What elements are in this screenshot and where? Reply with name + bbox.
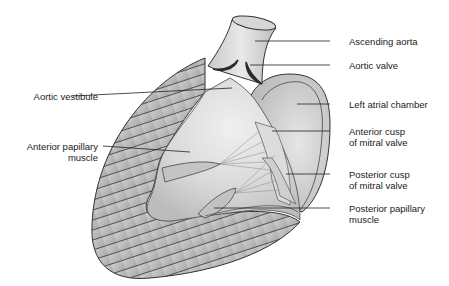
label-anterior-papillary-line2: muscle xyxy=(0,152,98,163)
label-aortic-vestibule: Aortic vestibule xyxy=(0,91,98,102)
label-posterior-cusp-line1: Posterior cusp xyxy=(349,169,410,180)
label-anterior-cusp-line2: of mitral valve xyxy=(349,137,408,148)
label-anterior-cusp-line1: Anterior cusp xyxy=(349,126,408,137)
label-aortic-valve: Aortic valve xyxy=(349,60,398,71)
label-anterior-papillary-line1: Anterior papillary xyxy=(0,141,98,152)
label-posterior-cusp: Posterior cusp of mitral valve xyxy=(349,169,410,191)
label-left-atrial-chamber: Left atrial chamber xyxy=(349,99,428,110)
label-posterior-papillary-line2: muscle xyxy=(349,214,425,225)
label-posterior-papillary: Posterior papillary muscle xyxy=(349,203,425,225)
label-posterior-papillary-line1: Posterior papillary xyxy=(349,203,425,214)
label-anterior-papillary: Anterior papillary muscle xyxy=(0,141,98,163)
label-anterior-cusp: Anterior cusp of mitral valve xyxy=(349,126,408,148)
label-posterior-cusp-line2: of mitral valve xyxy=(349,180,410,191)
heart-diagram: Ascending aorta Aortic valve Left atrial… xyxy=(0,0,449,286)
label-ascending-aorta: Ascending aorta xyxy=(349,36,418,47)
